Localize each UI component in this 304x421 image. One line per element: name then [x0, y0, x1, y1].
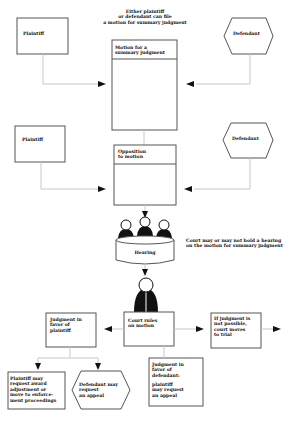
- arrow-down-icon: [142, 269, 148, 276]
- flowchart-canvas: [0, 0, 304, 421]
- motion-label: Motion for a summary judgment: [115, 45, 165, 56]
- plaintiff-box-2: [15, 126, 65, 162]
- trial-label: If judgment is not possible, court moves…: [214, 316, 250, 338]
- arrow-left-icon: [184, 186, 192, 192]
- defendant-judgment-label: Judgment in favor of defendant:: [152, 362, 184, 378]
- arrow-right-icon: [196, 326, 204, 332]
- arrow-left-icon: [186, 81, 194, 87]
- arrow-down-icon: [95, 363, 101, 370]
- hearing-label: Hearing: [125, 250, 165, 255]
- connector-defendant-opposition: [194, 158, 250, 189]
- connector-plaintiff-enforcement: [38, 347, 70, 364]
- court-rules-label: Court rules on motion: [128, 318, 157, 329]
- defendant-appeal-label: Defendant may request an appeal: [79, 382, 118, 398]
- judge-icon: [134, 278, 158, 312]
- arrow-right-icon: [98, 81, 106, 87]
- defendant-label-2: Defendant: [232, 136, 259, 141]
- connector-plaintiff-appeal: [70, 358, 98, 364]
- connector-plaintiff-opposition: [41, 162, 100, 189]
- hearing-note: Court may or may not hold a hearing on t…: [186, 238, 283, 249]
- connector-defendant-motion: [196, 54, 250, 84]
- defendant-label-1: Defendant: [233, 31, 260, 36]
- plaintiff-enforcement-label: Plaintiff may request award adjustment o…: [10, 376, 56, 403]
- judges-panel-icon: [118, 217, 172, 238]
- arrow-right-icon: [273, 326, 281, 332]
- arrow-down-icon: [35, 363, 41, 370]
- plaintiff-label-2: Plaintiff: [22, 137, 43, 142]
- plaintiff-label-1: Plaintiff: [23, 31, 44, 36]
- connector-plaintiff-motion: [43, 54, 100, 84]
- plaintiff-judgment-label: Judgment in favor of plaintiff: [50, 317, 82, 333]
- opposition-label: Opposition to motion: [118, 149, 146, 160]
- arrow-left-icon: [104, 326, 112, 332]
- arrow-right-icon: [98, 186, 106, 192]
- filing-note: Either plaintiff or defendant can file a…: [95, 9, 195, 25]
- defendant-judgment-sub-label: plaintiff may request an appeal: [152, 382, 184, 398]
